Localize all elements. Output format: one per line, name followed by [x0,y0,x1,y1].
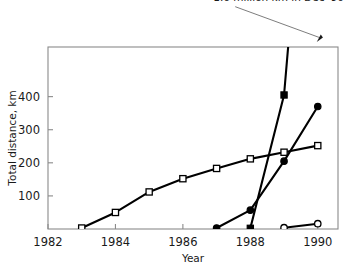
data-point-open-circle [281,224,287,230]
annotation-arrowhead-icon [317,35,323,42]
data-point-filled-circle [281,158,287,164]
data-point-open-square [146,189,152,195]
y-axis-tick-label: 300 [18,123,40,137]
data-point-open-square [214,165,220,171]
data-point-filled-circle [315,103,321,109]
data-point-open-square [180,176,186,182]
data-point-open-square [247,156,253,162]
annotation-leader-line [235,7,321,38]
data-point-filled-circle [247,207,253,213]
y-axis-tick-label: 200 [18,156,40,170]
x-axis-tick-label: 1986 [168,235,197,249]
total-distance-line-chart: 10020030040019821984198619881990YearTota… [0,0,349,279]
x-axis-tick-label: 1982 [33,235,62,249]
x-axis-tick-label: 1984 [101,235,130,249]
data-point-open-square [112,209,118,215]
chart-figure: 10020030040019821984198619881990YearTota… [0,0,349,279]
data-point-open-square [79,225,85,231]
data-point-open-square [281,149,287,155]
data-point-filled-square [247,225,253,231]
y-axis-title: Total distance, km [6,90,18,186]
series-line-open-circle-series [284,224,318,228]
data-point-open-square [315,143,321,149]
series-line-filled-circle-series [217,107,318,228]
y-axis-tick-label: 100 [18,189,40,203]
data-point-open-circle [315,221,321,227]
data-point-filled-square [281,92,287,98]
x-axis-title: Year [181,252,205,264]
plot-frame [48,47,338,229]
x-axis-tick-label: 1988 [236,235,265,249]
chart-annotation-label: 1.6 million km in Dec '90 [213,0,344,3]
y-axis-tick-label: 400 [18,90,40,104]
data-point-filled-circle [213,225,219,231]
x-axis-tick-label: 1990 [303,235,332,249]
